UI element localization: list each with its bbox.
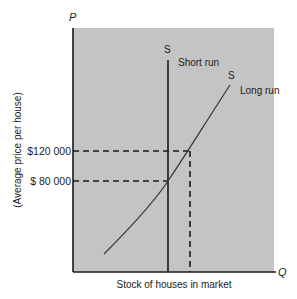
long-run-label: Long run [240,85,279,96]
y-tick-80000: $ 80 000 [30,175,71,187]
supply-diagram: P Q S Short run S Long run $120 000 $ 80… [0,0,297,299]
y-tick-120000: $120 000 [27,145,71,157]
short-run-label: Short run [178,57,219,68]
short-run-symbol: S [164,44,171,55]
q-axis-symbol: Q [278,266,287,278]
y-axis-title: (Average price per house) [12,92,23,207]
x-axis-title: Stock of houses in market [116,279,231,290]
long-run-symbol: S [228,70,235,81]
p-axis-symbol: P [69,11,77,23]
plot-area [73,28,274,272]
